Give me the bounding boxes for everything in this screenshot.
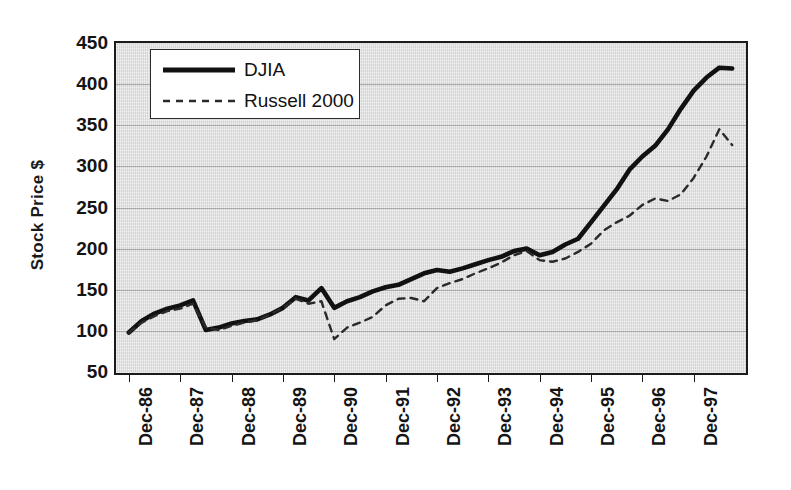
x-tick-label: Dec-96 <box>650 387 668 477</box>
x-tick-label: Dec-93 <box>496 387 514 477</box>
x-tick-label: Dec-87 <box>188 387 206 477</box>
x-tick-label: Dec-89 <box>291 387 309 477</box>
x-tick-mark <box>591 375 592 382</box>
x-tick-label: Dec-90 <box>342 387 360 477</box>
x-tick-label: Dec-97 <box>702 387 720 477</box>
x-axis-tick-labels: Dec-86Dec-87Dec-88Dec-89Dec-90Dec-91Dec-… <box>0 0 791 490</box>
x-tick-label: Dec-86 <box>137 387 155 477</box>
x-tick-label: Dec-88 <box>240 387 258 477</box>
x-tick-mark <box>334 375 335 382</box>
x-tick-label: Dec-95 <box>599 387 617 477</box>
x-tick-mark <box>180 375 181 382</box>
x-tick-mark <box>232 375 233 382</box>
x-tick-mark <box>129 375 130 382</box>
x-tick-mark <box>642 375 643 382</box>
x-tick-mark <box>694 375 695 382</box>
chart-figure: Stock Price $ 45040035030025020015010050… <box>0 0 791 490</box>
x-tick-label: Dec-91 <box>394 387 412 477</box>
x-tick-label: Dec-92 <box>445 387 463 477</box>
x-tick-mark <box>283 375 284 382</box>
x-tick-mark <box>437 375 438 382</box>
x-tick-mark <box>488 375 489 382</box>
x-tick-label: Dec-94 <box>548 387 566 477</box>
x-tick-mark <box>540 375 541 382</box>
x-tick-mark <box>386 375 387 382</box>
